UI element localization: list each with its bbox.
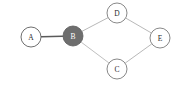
graph-node-c[interactable]: C: [107, 59, 127, 79]
graph-edge-d-e: [126, 18, 151, 32]
edges-layer: [41, 18, 151, 63]
node-circle-b[interactable]: [63, 26, 83, 46]
graph-diagram: ABCDE: [0, 0, 175, 88]
node-circle-d[interactable]: [107, 3, 127, 23]
node-circle-e[interactable]: [150, 28, 170, 48]
graph-node-d[interactable]: D: [107, 3, 127, 23]
graph-edge-c-e: [126, 44, 152, 63]
node-circle-c[interactable]: [107, 59, 127, 79]
graph-edge-b-c: [81, 42, 108, 62]
graph-svg-canvas: ABCDE: [0, 0, 175, 88]
node-circle-a[interactable]: [21, 27, 41, 47]
graph-edge-b-d: [82, 18, 107, 31]
nodes-layer: ABCDE: [21, 3, 170, 79]
graph-node-e[interactable]: E: [150, 28, 170, 48]
graph-node-a[interactable]: A: [21, 27, 41, 47]
graph-node-b[interactable]: B: [63, 26, 83, 46]
graph-edge-a-b: [41, 36, 62, 37]
